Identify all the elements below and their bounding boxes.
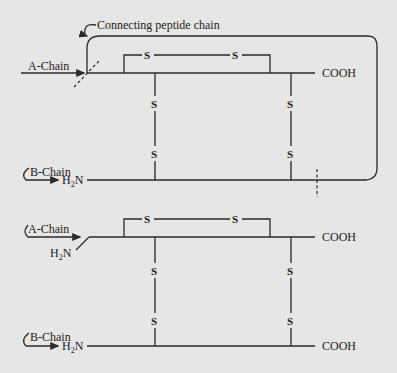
a-chain-cooh-label-bottom: COOH [322,230,356,244]
proinsulin-diagram: Connecting peptide chain A-Chain COOH S … [21,18,377,197]
inter-right-s-bottom-bottom: S [287,315,293,327]
intra-s-label-2-bottom: S [232,213,238,225]
inter-left-s-bottom: S [151,148,157,160]
inter-right-s-top-bottom: S [287,265,293,277]
insulin-structure-diagram: Connecting peptide chain A-Chain COOH S … [0,0,397,373]
intra-s-label-1-bottom: S [144,213,150,225]
b-chain-h2n-label-bottom: H2N [62,339,84,355]
a-chain-cooh-label: COOH [322,66,356,80]
inter-right-s-bottom: S [287,148,293,160]
connecting-peptide-label: Connecting peptide chain [97,18,220,32]
curly-arrow-icon [85,25,96,36]
intra-s-label-2: S [232,49,238,61]
b-chain-h2n-label: H2N [62,173,84,189]
inter-left-s-top-bottom: S [151,265,157,277]
a-chain-h2n-label: H2N [50,246,72,262]
a-chain-n-terminal-bond [76,237,89,250]
intra-s-label-1: S [144,49,150,61]
a-chain-label-bottom: A-Chain [28,222,69,236]
inter-right-s-top: S [287,98,293,110]
a-chain-label: A-Chain [28,59,69,73]
inter-left-s-bottom-bottom: S [151,315,157,327]
inter-left-s-top: S [151,98,157,110]
insulin-diagram: A-Chain H2N COOH S S S S S S B-Chain H2N… [24,212,357,355]
b-chain-cooh-label-bottom: COOH [322,339,356,353]
